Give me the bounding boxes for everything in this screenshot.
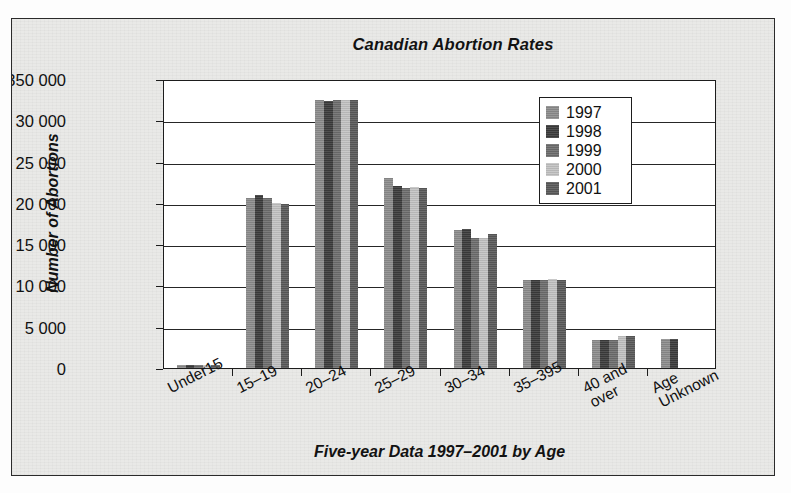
bar [384, 178, 393, 368]
plot-area [163, 80, 716, 369]
chart-title: Canadian Abortion Rates [12, 35, 774, 54]
legend-label: 1997 [566, 104, 602, 122]
bar-group [371, 81, 440, 368]
legend: 19971998199920002001 [539, 97, 632, 204]
bar [523, 280, 532, 368]
bar [479, 238, 488, 368]
y-tick-mark [156, 328, 163, 329]
legend-label: 2001 [566, 180, 602, 198]
y-tick-label: 0 [11, 360, 66, 379]
legend-swatch-icon [546, 144, 559, 157]
bar [350, 100, 359, 368]
y-tick-mark [156, 286, 163, 287]
legend-item: 2000 [546, 160, 624, 179]
legend-swatch-icon [546, 163, 559, 176]
bar [177, 365, 186, 368]
x-tick-mark [578, 369, 579, 376]
bar [272, 203, 281, 368]
bar [557, 280, 566, 368]
y-tick-label: 5 000 [11, 318, 66, 337]
bar [255, 195, 264, 368]
bar-group [441, 81, 510, 368]
bar [246, 198, 255, 368]
bar [419, 188, 428, 368]
legend-label: 1998 [566, 123, 602, 141]
bar-group [302, 81, 371, 368]
x-tick-mark [370, 369, 371, 376]
bar-group [164, 81, 233, 368]
legend-swatch-icon [546, 125, 559, 138]
bar [281, 204, 290, 368]
y-tick-label: 15 000 [11, 236, 66, 255]
y-tick-label: 25 000 [11, 153, 66, 172]
legend-item: 1997 [546, 103, 624, 122]
x-tick-mark [440, 369, 441, 376]
legend-label: 1999 [566, 142, 602, 160]
bar [661, 339, 670, 368]
y-tick-mark [156, 204, 163, 205]
x-tick-mark [647, 369, 648, 376]
legend-item: 1998 [546, 122, 624, 141]
y-tick-label: 20 000 [11, 194, 66, 213]
bar [488, 234, 497, 368]
bar [333, 100, 342, 368]
bar [263, 198, 272, 368]
legend-swatch-icon [546, 182, 559, 195]
bar [324, 101, 333, 368]
bar-group [648, 81, 717, 368]
y-tick-mark [156, 245, 163, 246]
bar [540, 280, 549, 368]
bar [626, 336, 635, 368]
bar [670, 339, 679, 368]
y-tick-mark [156, 163, 163, 164]
y-tick-mark [156, 121, 163, 122]
legend-item: 2001 [546, 179, 624, 198]
x-tick-mark [301, 369, 302, 376]
bar [315, 100, 324, 368]
legend-item: 1999 [546, 141, 624, 160]
bar [531, 280, 540, 368]
x-axis-title: Five-year Data 1997–2001 by Age [163, 443, 716, 461]
bar [462, 229, 471, 368]
bar [471, 238, 480, 368]
bar [410, 187, 419, 368]
y-tick-mark [156, 80, 163, 81]
bar [600, 340, 609, 368]
bar [548, 279, 557, 368]
legend-swatch-icon [546, 106, 559, 119]
x-tick-mark [509, 369, 510, 376]
bar [454, 230, 463, 368]
figure-container: Canadian Abortion Rates Number of Aborti… [11, 18, 775, 476]
y-tick-label: 10 000 [11, 277, 66, 296]
bar [592, 340, 601, 368]
bar-series-container [164, 81, 715, 368]
y-tick-label: 350 000 [11, 71, 66, 90]
y-tick-label: 30 000 [11, 112, 66, 131]
y-tick-mark [156, 369, 163, 370]
x-tick-mark [232, 369, 233, 376]
bar [402, 188, 411, 368]
bar-group [233, 81, 302, 368]
bar [393, 186, 402, 368]
legend-label: 2000 [566, 161, 602, 179]
bar [341, 100, 350, 368]
